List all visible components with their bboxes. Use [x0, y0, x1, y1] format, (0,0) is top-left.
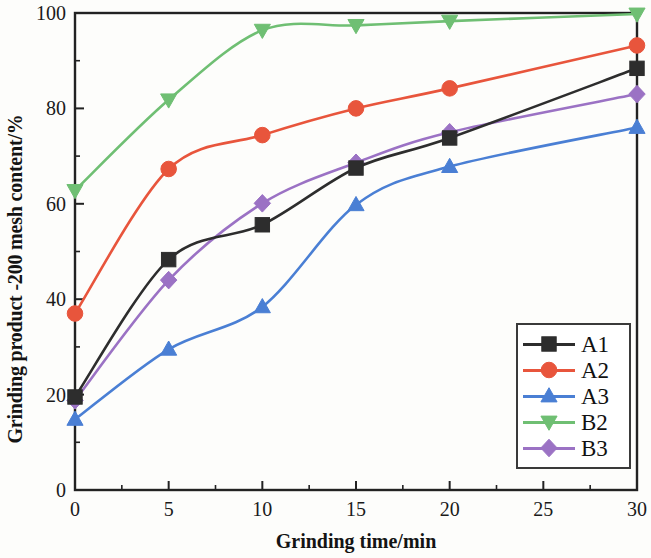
data-point-b2-0 — [67, 185, 83, 199]
x-axis-tick-label: 0 — [70, 498, 80, 521]
data-point-a2-10 — [255, 127, 271, 143]
x-axis-tick-label: 15 — [346, 498, 366, 521]
legend-marker-triangle-down-icon — [538, 411, 560, 433]
legend-symbol-a2-icon — [523, 360, 575, 380]
chart-legend: A1A2A3B2B3 — [516, 323, 631, 469]
series-line-a2 — [75, 45, 637, 313]
x-axis-tick-label: 5 — [164, 498, 174, 521]
legend-marker-diamond-icon — [538, 437, 560, 459]
legend-label: A2 — [575, 359, 609, 382]
data-point-a2-30 — [629, 38, 645, 54]
legend-symbol-b2-icon — [523, 412, 575, 432]
data-point-a1-0 — [68, 390, 82, 404]
x-axis-tick-labels: 051015202530 — [0, 498, 651, 528]
data-point-a1-10 — [255, 218, 269, 232]
legend-label: A1 — [575, 333, 609, 356]
x-axis-tick-label: 20 — [440, 498, 460, 521]
data-point-a2-15 — [348, 101, 364, 117]
legend-item-a3[interactable]: A3 — [523, 383, 623, 409]
legend-item-a1[interactable]: A1 — [523, 331, 623, 357]
legend-marker-square-icon — [538, 333, 560, 355]
x-axis-title: Grinding time/min — [75, 530, 637, 553]
legend-symbol-a1-icon — [523, 334, 575, 354]
legend-label: A3 — [575, 385, 609, 408]
legend-label: B3 — [575, 437, 608, 460]
data-point-b3-30 — [629, 85, 645, 103]
legend-marker-shape — [542, 337, 556, 351]
plot-area — [0, 0, 651, 558]
legend-item-b3[interactable]: B3 — [523, 435, 623, 461]
x-axis-tick-label: 25 — [533, 498, 553, 521]
legend-item-b2[interactable]: B2 — [523, 409, 623, 435]
legend-symbol-b3-icon — [523, 438, 575, 458]
data-point-a2-5 — [161, 161, 177, 177]
chart-figure: Grinding product -200 mesh content/% 020… — [0, 0, 651, 558]
legend-marker-shape — [541, 388, 557, 402]
data-point-a3-5 — [161, 341, 177, 355]
data-point-b3-10 — [254, 195, 270, 213]
data-point-a2-20 — [442, 81, 458, 97]
legend-marker-triangle-up-icon — [538, 385, 560, 407]
data-point-a3-0 — [67, 411, 83, 425]
legend-item-a2[interactable]: A2 — [523, 357, 623, 383]
x-axis-tick-label: 30 — [627, 498, 647, 521]
data-point-a1-30 — [630, 61, 644, 75]
legend-marker-shape — [541, 439, 557, 457]
legend-marker-shape — [541, 362, 557, 378]
series-a2 — [67, 38, 645, 322]
data-point-a1-15 — [349, 161, 363, 175]
data-point-a2-0 — [67, 306, 83, 322]
legend-label: B2 — [575, 411, 608, 434]
legend-marker-circle-icon — [538, 359, 560, 381]
legend-symbol-a3-icon — [523, 386, 575, 406]
data-point-a3-30 — [629, 119, 645, 133]
data-point-a1-20 — [442, 131, 456, 145]
data-point-a3-15 — [348, 196, 364, 210]
data-point-a1-5 — [161, 252, 175, 266]
x-axis-tick-label: 10 — [252, 498, 272, 521]
legend-marker-shape — [541, 416, 557, 430]
